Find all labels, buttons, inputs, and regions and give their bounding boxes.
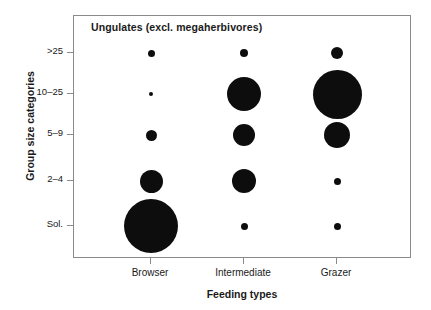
bubble-chart-figure: Group size categories >2510–255–92–4Sol.… (0, 0, 431, 310)
bubble-browser-10-25 (149, 92, 153, 96)
x-tick-mark (336, 258, 337, 264)
chart-title: Ungulates (excl. megaherbivores) (91, 21, 262, 33)
x-tick-mark (150, 258, 151, 264)
x-tick-label: Grazer (276, 267, 396, 278)
y-tick-label: Sol. (47, 218, 63, 229)
x-tick-mark (243, 258, 244, 264)
bubble-intermediate-2-4 (232, 169, 256, 193)
y-tick-label: 2–4 (47, 173, 63, 184)
y-axis-title: Group size categories (24, 36, 36, 216)
bubble-intermediate-sol (241, 223, 248, 230)
y-tick-label: 10–25 (37, 86, 63, 97)
bubble-browser-5-9 (146, 130, 157, 141)
bubble-intermediate-gt25 (240, 49, 248, 57)
y-tick-label: 5–9 (47, 127, 63, 138)
bubble-intermediate-10-25 (227, 77, 261, 111)
bubble-grazer-5-9 (324, 122, 350, 148)
bubble-grazer-sol (334, 223, 341, 230)
bubble-intermediate-5-9 (233, 124, 255, 146)
bubble-browser-sol (124, 199, 178, 253)
y-tick-label: >25 (47, 45, 63, 56)
bubble-grazer-2-4 (334, 178, 341, 185)
x-axis-title: Feeding types (73, 288, 411, 300)
plot-area (73, 15, 411, 258)
bubble-browser-2-4 (140, 170, 163, 193)
bubble-grazer-gt25 (331, 47, 343, 59)
bubble-grazer-10-25 (313, 70, 362, 119)
bubble-browser-gt25 (148, 50, 155, 57)
